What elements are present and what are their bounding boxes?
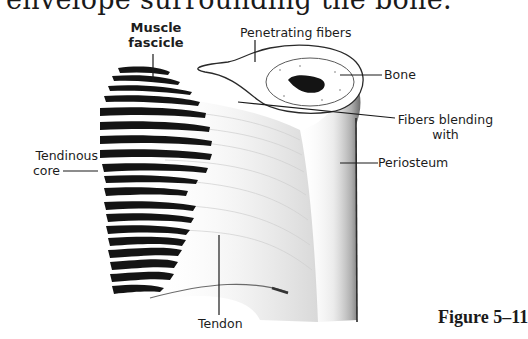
tendinous-core-label: Tendinous core [28, 148, 98, 178]
fibers-blending-label: Fibers blending with [393, 112, 498, 142]
periosteum-label: Periosteum [378, 155, 448, 170]
penetrating-fibers-label: Penetrating fibers [240, 25, 351, 40]
tendon-label: Tendon [198, 316, 243, 331]
muscle-fascicle-label: Muscle fascicle [121, 20, 191, 50]
figure-caption: Figure 5–11 [438, 307, 528, 328]
bone-label: Bone [384, 67, 416, 82]
bone-cross-section [198, 45, 363, 113]
